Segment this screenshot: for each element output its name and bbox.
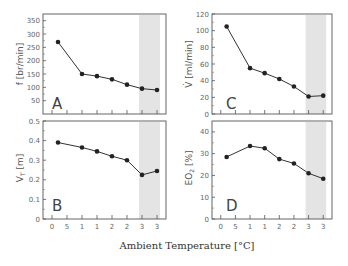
data-point <box>277 157 282 162</box>
y-tick-label: 20 <box>200 172 209 180</box>
x-tick-label: 3 <box>140 223 144 231</box>
y-tick-label: 200 <box>27 57 40 65</box>
shaded-band <box>139 15 160 114</box>
data-point <box>110 77 115 82</box>
x-tick-label: 5 <box>65 223 69 231</box>
y-tick-label: 80 <box>200 44 209 52</box>
data-point <box>125 82 130 87</box>
y-axis-label-b: VT [m] <box>15 154 26 183</box>
y-tick-label: 0.1 <box>29 196 40 204</box>
data-point <box>262 71 267 76</box>
x-tick-label: 2 <box>110 223 114 231</box>
y-tick-label: 40 <box>200 77 209 85</box>
data-point <box>80 72 85 77</box>
y-tick-label: 10 <box>200 194 209 202</box>
y-tick-label: 100 <box>27 84 40 92</box>
x-tick-label: 3 <box>321 223 325 231</box>
data-point <box>224 24 229 29</box>
data-point <box>56 40 61 45</box>
data-point <box>155 169 160 174</box>
x-tick-label: 2 <box>125 223 129 231</box>
x-tick-label: 1 <box>262 223 266 231</box>
y-tick-label: 50 <box>31 97 40 105</box>
y-tick-label: 30 <box>200 150 209 158</box>
x-tick-label: 2 <box>292 223 296 231</box>
y-tick-label: 20 <box>200 94 209 102</box>
panel-label-d: D <box>226 197 238 215</box>
y-tick-label: 100 <box>196 27 209 35</box>
data-point <box>277 77 282 82</box>
y-tick-label: 300 <box>27 31 40 39</box>
y-tick-label: 0.2 <box>29 176 40 184</box>
panel-label-c: C <box>226 95 236 113</box>
data-point <box>248 144 253 149</box>
x-tick-label: 1 <box>80 223 84 231</box>
y-axis-label-c: V̇ [ml/min] <box>183 40 194 87</box>
data-point <box>321 176 326 181</box>
x-tick-label: 0 <box>219 223 223 231</box>
panel-label-b: B <box>52 197 62 215</box>
y-tick-label: 0.5 <box>29 118 40 126</box>
data-point <box>306 94 311 99</box>
y-tick-label: 60 <box>200 61 209 69</box>
y-axis-label-d: EO2 [%] <box>184 150 195 185</box>
y-tick-label: 0 <box>205 111 209 119</box>
y-tick-label: 120 <box>196 11 209 19</box>
panel-b: 00.10.20.30.40.505112233 <box>29 118 166 232</box>
y-tick-label: 40 <box>200 128 209 136</box>
x-axis-label: Ambient Temperature [°C] <box>118 240 254 251</box>
panel-a: 50100150200250300350 <box>27 14 166 114</box>
data-point <box>125 158 130 163</box>
x-tick-label: 3 <box>155 223 159 231</box>
data-point <box>110 154 115 159</box>
data-point <box>56 140 61 145</box>
panel-label-a: A <box>52 95 63 113</box>
y-tick-label: 250 <box>27 44 40 52</box>
data-point <box>95 74 100 79</box>
x-tick-label: 1 <box>248 223 252 231</box>
data-point <box>248 66 253 71</box>
y-axis-label-a: f [br/min] <box>15 43 25 85</box>
panel-c: 020406080100120 <box>196 11 332 119</box>
data-point <box>292 84 297 89</box>
data-point <box>292 161 297 166</box>
data-point <box>80 145 85 150</box>
shaded-band <box>306 15 327 114</box>
data-point <box>306 171 311 176</box>
y-tick-label: 0 <box>205 216 209 224</box>
y-tick-label: 0.4 <box>29 137 41 145</box>
data-point <box>95 149 100 154</box>
y-tick-label: 0.3 <box>29 157 40 165</box>
data-point <box>155 88 160 93</box>
x-tick-label: 0 <box>50 223 54 231</box>
shaded-band <box>306 122 327 219</box>
panel-d: 01020304005112233 <box>200 121 332 231</box>
data-point <box>140 173 145 178</box>
x-tick-label: 5 <box>233 223 237 231</box>
x-tick-label: 1 <box>95 223 99 231</box>
chart-figure: 50100150200250300350 00.10.20.30.40.5051… <box>0 0 348 266</box>
x-tick-label: 2 <box>277 223 281 231</box>
data-point <box>224 155 229 160</box>
data-point <box>321 93 326 98</box>
y-tick-label: 150 <box>27 71 40 79</box>
y-tick-label: 350 <box>27 17 40 25</box>
data-point <box>140 86 145 91</box>
x-tick-label: 3 <box>306 223 310 231</box>
y-tick-label: 0 <box>36 216 40 224</box>
data-point <box>262 146 267 151</box>
